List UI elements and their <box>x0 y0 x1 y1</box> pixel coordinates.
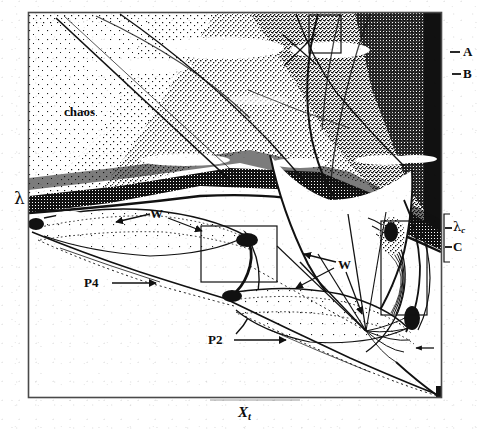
scale-label-lambda-c-base: λ <box>453 219 461 234</box>
scale-label-lambda-c: λc <box>453 219 465 235</box>
scale-label-c: C <box>453 239 462 255</box>
scale-label-a: A <box>463 44 472 60</box>
x-axis-label-base: X <box>238 404 248 420</box>
label-w-upper: W <box>150 206 163 222</box>
label-chaos: chaos <box>64 104 95 120</box>
scale-label-lambda-c-sub: c <box>461 225 465 235</box>
y-axis-label: λ <box>14 188 25 208</box>
x-axis-label-sub: t <box>248 411 251 422</box>
scale-label-b: B <box>463 66 472 82</box>
label-p2: P2 <box>208 332 222 348</box>
x-axis-label: Xt <box>238 404 251 422</box>
label-w-lower: W <box>338 257 351 273</box>
figure-canvas <box>0 0 477 436</box>
label-p4: P4 <box>84 275 98 291</box>
